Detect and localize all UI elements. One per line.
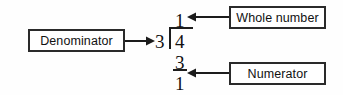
callout-numerator-label: Numerator <box>248 67 308 81</box>
divisor-digit: 3 <box>155 32 165 51</box>
callout-whole-number: Whole number <box>229 6 326 29</box>
arrow-denominator-to-divisor <box>125 37 155 46</box>
callout-denominator-label: Denominator <box>40 34 113 48</box>
subtrahend-underline <box>173 69 187 71</box>
callout-numerator: Numerator <box>229 62 326 85</box>
diagram-canvas: 3 1 4 3 1 Denominator Whole number Numer… <box>0 0 343 95</box>
division-bracket-vertical <box>169 27 171 49</box>
dividend-digit: 4 <box>175 32 185 51</box>
quotient-digit: 1 <box>175 11 185 30</box>
callout-denominator: Denominator <box>28 29 125 52</box>
remainder-digit: 1 <box>175 74 185 93</box>
long-division-group: 3 1 4 3 1 <box>155 6 210 88</box>
callout-whole-number-label: Whole number <box>236 11 319 25</box>
